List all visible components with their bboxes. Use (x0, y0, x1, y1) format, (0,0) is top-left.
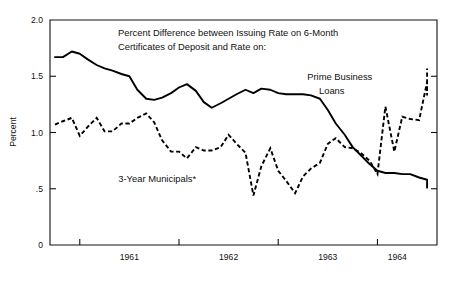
chart-axes (50, 20, 437, 245)
chart-title-line-1: Percent Difference between Issuing Rate … (118, 27, 338, 38)
x-tick-label: 1962 (219, 252, 238, 262)
series-line-three-year-municipals (55, 68, 427, 195)
y-tick-label: 2.0 (31, 15, 43, 25)
y-tick-label: .5 (36, 184, 43, 194)
y-axis-tick-labels: 0.51.01.52.0 (31, 15, 43, 250)
chart-title-line-2: Certificates of Deposit and Rate on: (118, 41, 266, 52)
line-chart-figure: 0.51.01.52.0 1961196219631964 Percent Pe… (0, 0, 454, 283)
x-axis-tick-labels: 1961196219631964 (120, 252, 407, 262)
y-axis-title: Percent (8, 117, 18, 147)
x-tick-label: 1963 (318, 252, 337, 262)
y-tick-label: 0 (38, 240, 43, 250)
y-tick-label: 1.0 (31, 128, 43, 138)
x-tick-label: 1964 (388, 252, 407, 262)
series-label-three-year-municipals: 3-Year Municipals* (118, 173, 196, 184)
chart-container: 0.51.01.52.0 1961196219631964 Percent Pe… (0, 0, 454, 283)
y-tick-label: 1.5 (31, 71, 43, 81)
x-tick-label: 1961 (120, 252, 139, 262)
series-label-prime-business-loans-line-1: Prime Business (307, 71, 372, 82)
series-label-prime-business-loans-line-2: Loans (319, 85, 345, 96)
